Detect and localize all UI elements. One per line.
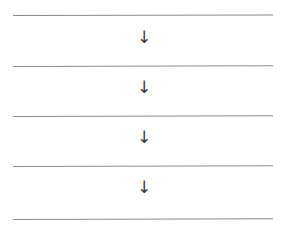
arrow-down-icon-2: ↓	[133, 78, 155, 96]
arrow-down-icon-1: ↓	[133, 28, 155, 46]
arrow-down-icon-4: ↓	[133, 178, 155, 196]
vertical-flow-stack: ↓ ↓ ↓ ↓	[0, 0, 284, 236]
arrow-down-icon-3: ↓	[133, 128, 155, 146]
diagram-canvas: ↓ ↓ ↓ ↓	[0, 0, 284, 236]
horizontal-divider-4	[13, 165, 273, 167]
horizontal-divider-5	[13, 218, 273, 220]
horizontal-divider-2	[13, 65, 273, 67]
horizontal-divider-1	[13, 14, 273, 16]
horizontal-divider-3	[13, 115, 273, 117]
